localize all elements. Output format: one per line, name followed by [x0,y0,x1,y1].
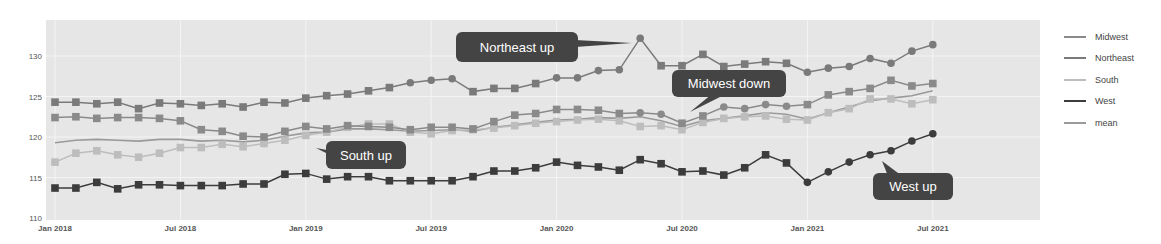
data-point[interactable] [177,100,185,108]
data-point[interactable] [156,181,164,189]
data-point[interactable] [783,115,791,123]
data-point[interactable] [218,140,226,148]
data-point[interactable] [135,153,143,161]
data-point[interactable] [866,85,874,93]
data-point[interactable] [93,147,101,155]
data-point[interactable] [51,114,59,122]
data-point[interactable] [762,112,770,120]
data-point[interactable] [783,159,791,167]
data-point[interactable] [636,156,644,164]
data-point[interactable] [93,100,101,108]
data-point[interactable] [302,170,310,178]
legend-item-midwest[interactable]: Midwest [1064,26,1134,48]
data-point[interactable] [532,80,540,88]
data-point[interactable] [281,170,289,178]
data-point[interactable] [845,158,853,166]
data-point[interactable] [490,85,498,93]
data-point[interactable] [198,182,206,190]
data-point[interactable] [699,119,707,127]
data-point[interactable] [657,111,665,119]
data-point[interactable] [177,144,185,152]
data-point[interactable] [114,114,122,122]
data-point[interactable] [595,106,603,114]
data-point[interactable] [72,184,80,192]
data-point[interactable] [825,64,833,72]
data-point[interactable] [427,77,435,85]
data-point[interactable] [720,171,728,179]
data-point[interactable] [114,185,122,193]
legend-item-south[interactable]: South [1064,69,1134,91]
data-point[interactable] [741,60,749,68]
data-point[interactable] [699,167,707,175]
data-point[interactable] [595,163,603,171]
data-point[interactable] [511,111,519,119]
data-point[interactable] [866,55,874,63]
data-point[interactable] [574,74,582,82]
data-point[interactable] [825,91,833,99]
data-point[interactable] [574,162,582,170]
data-point[interactable] [323,92,331,100]
data-point[interactable] [553,158,561,166]
data-point[interactable] [260,133,268,141]
data-point[interactable] [260,180,268,188]
data-point[interactable] [72,113,80,121]
data-point[interactable] [762,151,770,159]
data-point[interactable] [135,114,143,122]
data-point[interactable] [720,115,728,123]
data-point[interactable] [804,179,812,187]
legend-item-west[interactable]: West [1064,91,1134,113]
data-point[interactable] [762,58,770,66]
data-point[interactable] [804,68,812,76]
data-point[interactable] [281,99,289,107]
data-point[interactable] [804,101,812,109]
data-point[interactable] [114,98,122,106]
data-point[interactable] [198,102,206,110]
data-point[interactable] [866,151,874,159]
data-point[interactable] [908,137,916,145]
data-point[interactable] [177,182,185,190]
data-point[interactable] [302,94,310,102]
data-point[interactable] [741,113,749,121]
data-point[interactable] [574,106,582,114]
data-point[interactable] [636,123,644,131]
data-point[interactable] [323,175,331,183]
data-point[interactable] [51,158,59,166]
data-point[interactable] [198,126,206,134]
data-point[interactable] [260,98,268,106]
data-point[interactable] [532,164,540,172]
data-point[interactable] [657,122,665,130]
data-point[interactable] [616,166,624,174]
data-point[interactable] [260,140,268,148]
data-point[interactable] [365,87,373,95]
data-point[interactable] [469,125,477,133]
data-point[interactable] [344,122,352,130]
data-point[interactable] [469,173,477,181]
data-point[interactable] [365,173,373,181]
data-point[interactable] [469,88,477,96]
data-point[interactable] [427,123,435,131]
data-point[interactable] [845,105,853,113]
data-point[interactable] [511,167,519,175]
data-point[interactable] [678,126,686,134]
data-point[interactable] [407,79,415,87]
data-point[interactable] [762,101,770,109]
data-point[interactable] [365,123,373,131]
data-point[interactable] [156,99,164,107]
data-point[interactable] [532,119,540,127]
data-point[interactable] [657,160,665,168]
data-point[interactable] [198,144,206,152]
data-point[interactable] [51,184,59,192]
data-point[interactable] [135,105,143,113]
data-point[interactable] [741,105,749,113]
data-point[interactable] [448,123,456,131]
data-point[interactable] [156,149,164,157]
data-point[interactable] [239,103,247,111]
data-point[interactable] [490,167,498,175]
data-point[interactable] [239,180,247,188]
data-point[interactable] [407,126,415,134]
data-point[interactable] [929,96,937,104]
data-point[interactable] [532,110,540,118]
data-point[interactable] [553,106,561,114]
data-point[interactable] [574,116,582,124]
data-point[interactable] [678,62,686,70]
